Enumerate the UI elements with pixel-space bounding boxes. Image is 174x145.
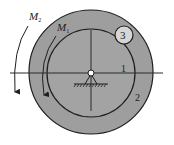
- body-2-label: 2: [135, 92, 140, 103]
- mechanism-diagram: M2 M1 3 1 2: [0, 0, 174, 145]
- moment-m2-label: M2: [28, 10, 41, 23]
- moment-m2-arrow-icon: [15, 26, 28, 92]
- body-3-label: 3: [120, 29, 126, 41]
- body-1-label: 1: [121, 63, 126, 74]
